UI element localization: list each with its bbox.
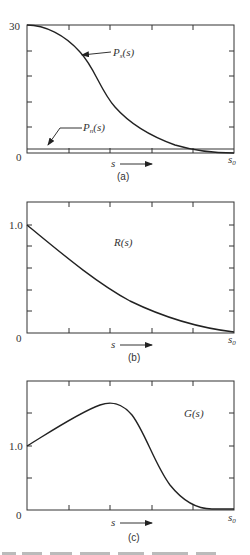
y-ticks-left [27,225,32,311]
x-axis-label: s [111,338,115,350]
x-ticks-top [69,25,193,30]
ps-label: Ps(s) [112,46,134,60]
r-label: R(s) [113,236,133,249]
x-axis-label: s [111,157,115,169]
x-end-label: s0 [228,511,236,525]
figure: Ps(s) Pn(s) 30 0 s0 s (a) [0,0,250,555]
pn-arrow [48,128,82,145]
plot-frame [27,202,234,333]
panel-caption: (b) [128,352,140,363]
g-label: G(s) [184,407,204,420]
panel-caption: (a) [117,171,129,182]
ps-curve [27,25,234,153]
y-ticks-left [27,51,32,127]
y-tick-label-zero: 0 [16,509,22,521]
y-tick-label-top: 1.0 [9,440,23,452]
x-end-label: s0 [228,153,236,167]
y-ticks-right [229,51,234,127]
panel-c: G(s) 1.0 0 s0 s (c) [9,381,236,543]
x-end-label: s0 [228,333,236,347]
x-ticks-top [69,202,193,207]
x-ticks-bottom [69,328,193,333]
pn-label: Pn(s) [82,121,105,135]
y-tick-label-zero: 0 [16,332,22,344]
ps-arrow [82,52,111,55]
panel-b: R(s) 1.0 0 s0 s (b) [9,202,236,363]
x-ticks-bottom [69,505,193,510]
x-axis-label: s [111,516,115,528]
panel-caption: (c) [128,532,140,543]
g-curve [27,403,234,509]
y-tick-label-top: 1.0 [9,219,23,231]
plot-frame [27,381,234,510]
y-tick-label-zero: 0 [16,151,22,163]
y-ticks-right [229,225,234,311]
plot-frame [27,25,234,153]
y-tick-label-top: 30 [9,20,21,32]
panel-a: Ps(s) Pn(s) 30 0 s0 s (a) [9,20,236,182]
y-ticks-right [229,413,234,478]
x-ticks-top [69,381,193,386]
